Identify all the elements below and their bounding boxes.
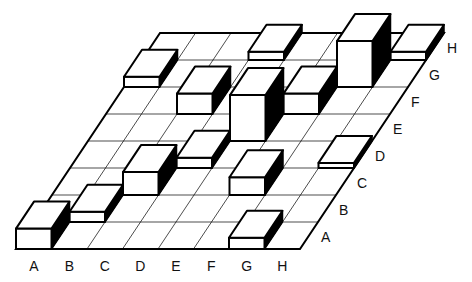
column-label: H — [277, 258, 287, 274]
bar-front-face — [284, 94, 320, 114]
row-label: G — [429, 67, 440, 83]
bar-top-face — [391, 25, 445, 52]
row-label: E — [393, 121, 402, 137]
column-label: F — [207, 258, 216, 274]
row-label: D — [375, 148, 385, 164]
bar3d-chart: ABCDEFGH ABCDEFGH — [0, 0, 472, 282]
bar-HH — [391, 25, 445, 60]
row-label: C — [357, 175, 367, 191]
column-label: C — [100, 258, 110, 274]
bar-front-face — [230, 95, 266, 141]
row-label: F — [411, 94, 420, 110]
bar-front-face — [230, 177, 266, 195]
bar-front-face — [70, 212, 106, 222]
row-label: B — [339, 202, 348, 218]
bar-front-face — [124, 77, 160, 87]
bar-front-face — [391, 52, 427, 60]
column-label: E — [171, 258, 180, 274]
bar-front-face — [123, 172, 159, 195]
column-label: A — [29, 258, 39, 274]
row-label: A — [321, 229, 331, 245]
column-label: G — [241, 258, 252, 274]
bar-front-face — [177, 94, 213, 114]
column-label: D — [135, 258, 145, 274]
column-label: B — [65, 258, 74, 274]
bar-front-face — [16, 229, 52, 249]
bar-front-face — [229, 238, 265, 249]
column-labels: ABCDEFGH — [29, 258, 287, 274]
bar-front-face — [177, 158, 213, 168]
bar-front-face — [249, 52, 285, 60]
bar-front-face — [337, 41, 373, 87]
row-label: H — [447, 40, 457, 56]
